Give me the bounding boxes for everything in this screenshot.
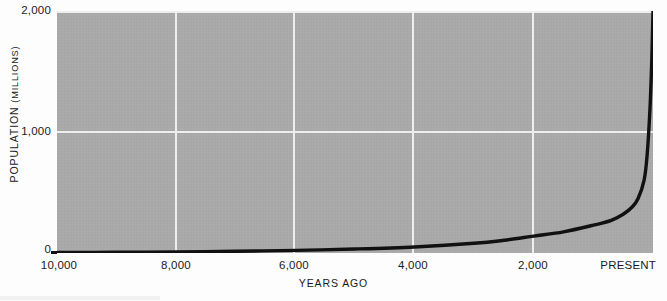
y-tick-label-0: 0	[44, 243, 51, 255]
y-axis-title-main: POPULATION	[8, 106, 20, 182]
x-tick-label-present: PRESENT	[600, 259, 656, 271]
x-axis-title-text: YEARS AGO	[299, 277, 368, 289]
population-curve	[57, 11, 653, 253]
x-tick-label-2000: 2,000	[518, 259, 548, 271]
figure-population-over-time: 2,000 1,000 0 POPULATION (MILLIONS) 10,0…	[0, 0, 667, 301]
baseline-stub	[51, 251, 57, 254]
x-tick-label-8000: 8,000	[161, 259, 191, 271]
x-tick-label-6000: 6,000	[279, 259, 309, 271]
y-tick-label-1000: 1,000	[21, 125, 51, 137]
y-axis-title: POPULATION (MILLIONS)	[8, 14, 20, 214]
x-tick-label-4000: 4,000	[398, 259, 428, 271]
page-edge-strip	[0, 296, 160, 300]
y-axis-title-unit: (MILLIONS)	[10, 46, 20, 103]
x-axis-title: YEARS AGO	[0, 277, 667, 289]
x-tick-label-10000: 10,000	[41, 259, 77, 271]
plot-area	[57, 11, 653, 253]
y-tick-label-2000: 2,000	[21, 4, 51, 16]
